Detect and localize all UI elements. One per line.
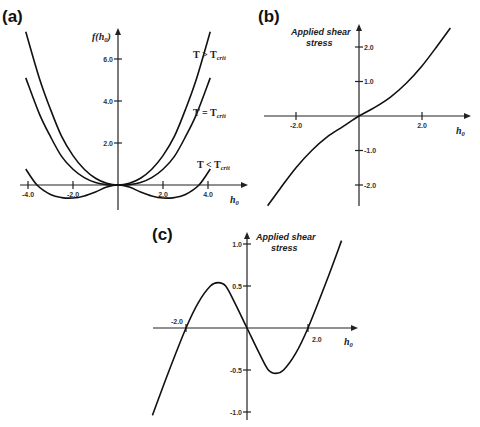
arrow-up-icon bbox=[115, 28, 121, 35]
x-tick-label: -2.0 bbox=[290, 122, 302, 129]
legend-t-equal: T = Tcrit bbox=[193, 107, 226, 119]
legend-t-greater: T > Tcrit bbox=[193, 49, 226, 61]
legend-t-less: T < Tcrit bbox=[197, 159, 230, 171]
y-tick-label: 1.0 bbox=[364, 78, 374, 85]
y-tick-label: 2.0 bbox=[103, 140, 113, 147]
panel-a-ylabel: f(h0) bbox=[92, 31, 111, 43]
panel-b-title-line2: stress bbox=[306, 38, 333, 48]
panel-b-xlabel: h0 bbox=[456, 125, 466, 137]
y-tick-label: 1.0 bbox=[232, 241, 242, 248]
figure: (a) -4.0-2.02.04.0 2.04.06.0 f(h0) h0 T … bbox=[0, 0, 480, 427]
panel-c: (c) Applied shear stress -2.02.0 1.00.5-… bbox=[152, 225, 358, 420]
y-tick-label: -1.0 bbox=[230, 409, 242, 416]
panel-b: (b) Applied shear stress -2.02.0 2.01.0-… bbox=[258, 7, 471, 206]
panel-b-label: (b) bbox=[258, 7, 280, 26]
y-tick-label: -0.5 bbox=[230, 367, 242, 374]
panel-a-xlabel: h0 bbox=[230, 194, 240, 206]
arrow-right-icon bbox=[241, 182, 248, 188]
panel-a-y-ticks: 2.04.06.0 bbox=[103, 56, 122, 147]
arrow-up-icon bbox=[356, 24, 362, 31]
x-tick-label: 2.0 bbox=[417, 122, 427, 129]
y-tick-label: -2.0 bbox=[364, 182, 376, 189]
panel-c-x-ticks: -2.02.0 bbox=[171, 318, 322, 343]
y-tick-label: 2.0 bbox=[364, 44, 374, 51]
arrow-right-icon bbox=[464, 113, 471, 119]
panel-c-title-line2: stress bbox=[271, 243, 298, 253]
y-tick-label: 4.0 bbox=[103, 98, 113, 105]
panel-b-title-line1: Applied shear bbox=[290, 27, 351, 37]
y-tick-label: 6.0 bbox=[103, 56, 113, 63]
y-tick-label: 0.5 bbox=[232, 283, 242, 290]
arrow-right-icon bbox=[351, 325, 358, 331]
y-tick-label: -1.0 bbox=[364, 147, 376, 154]
x-tick-label: -2.0 bbox=[171, 318, 183, 325]
panel-c-xlabel: h0 bbox=[344, 336, 354, 348]
panel-a-label: (a) bbox=[2, 7, 23, 26]
panel-c-label: (c) bbox=[152, 225, 173, 244]
arrow-up-icon bbox=[244, 232, 250, 239]
x-tick-label: 4.0 bbox=[203, 191, 213, 198]
x-tick-label: 2.0 bbox=[312, 336, 322, 343]
x-tick-label: -4.0 bbox=[22, 191, 34, 198]
panel-a: (a) -4.0-2.02.04.0 2.04.06.0 f(h0) h0 T … bbox=[2, 7, 248, 210]
panel-c-title-line1: Applied shear bbox=[255, 232, 316, 242]
